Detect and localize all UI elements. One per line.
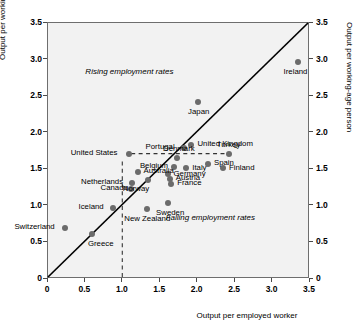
data-point-turkey xyxy=(226,151,232,157)
y-tick-label-left-2: 1.0 xyxy=(14,200,42,210)
y-tick-mark-right-5 xyxy=(309,95,313,96)
data-point-france xyxy=(168,181,174,187)
x-tick-label-2: 1.0 xyxy=(108,284,136,294)
x-tick-label-6: 3.0 xyxy=(258,284,286,294)
y-tick-mark-left-4 xyxy=(43,131,47,132)
point-label-netherlands: Netherlands xyxy=(81,178,123,186)
x-tick-label-1: 0.5 xyxy=(70,284,98,294)
x-axis-title: Output per employed worker xyxy=(0,311,360,320)
data-point-sweden xyxy=(165,200,171,206)
x-tick-mark-3 xyxy=(159,278,160,282)
x-tick-label-0: 0 xyxy=(33,284,61,294)
y-tick-mark-right-2 xyxy=(309,204,313,205)
x-tick-mark-7 xyxy=(309,278,310,282)
x-tick-mark-2 xyxy=(121,278,122,282)
annotation-rising-employment-rates: Rising employment rates xyxy=(85,67,173,76)
x-axis-title-text: Output per employed worker xyxy=(197,311,298,320)
y-tick-label-right-4: 2.0 xyxy=(316,127,344,137)
data-point-united-states xyxy=(126,151,132,157)
y-tick-label-left-6: 3.0 xyxy=(14,54,42,64)
y-tick-mark-right-1 xyxy=(309,241,313,242)
x-tick-mark-6 xyxy=(271,278,272,282)
data-point-greece xyxy=(89,231,95,237)
data-point-switzerland xyxy=(62,225,68,231)
point-label-norway: Norway xyxy=(123,185,149,193)
y-tick-label-right-7: 3.5 xyxy=(316,17,344,27)
point-label-ireland: Ireland xyxy=(284,68,308,76)
x-tick-label-7: 3.5 xyxy=(295,284,323,294)
point-label-united-states: United States xyxy=(71,149,118,157)
y-tick-label-left-1: 0.5 xyxy=(14,236,42,246)
annotation-falling-employment-rates: Falling employment rates xyxy=(166,213,255,222)
x-tick-label-5: 2.5 xyxy=(220,284,248,294)
y-tick-mark-left-1 xyxy=(43,241,47,242)
data-point-new-zealand xyxy=(144,206,150,212)
y-tick-label-right-2: 1.0 xyxy=(316,200,344,210)
x-tick-mark-0 xyxy=(47,278,48,282)
x-tick-mark-4 xyxy=(196,278,197,282)
point-label-finland: Finland xyxy=(229,164,255,172)
point-label-turkey: Turkey xyxy=(217,141,241,149)
y-tick-mark-right-7 xyxy=(309,22,313,23)
y-tick-mark-right-6 xyxy=(309,58,313,59)
x-tick-mark-1 xyxy=(84,278,85,282)
y-tick-label-right-5: 2.5 xyxy=(316,90,344,100)
y-tick-label-left-4: 2.0 xyxy=(14,127,42,137)
point-label-greece: Greece xyxy=(88,240,114,248)
data-point-norway xyxy=(145,177,151,183)
point-label-switzerland: Switzerland xyxy=(14,223,54,231)
y-tick-mark-left-3 xyxy=(43,168,47,169)
x-tick-label-4: 2.0 xyxy=(183,284,211,294)
y-axis-title-right: Output per working-age person xyxy=(345,22,354,172)
data-point-denmark xyxy=(174,155,180,161)
scatter-chart-figure: 000.50.51.01.01.51.52.02.02.52.53.03.03.… xyxy=(0,0,360,328)
point-label-portugal: Portugal xyxy=(146,143,175,151)
y-tick-mark-left-5 xyxy=(43,95,47,96)
x-tick-mark-5 xyxy=(234,278,235,282)
y-tick-mark-right-3 xyxy=(309,168,313,169)
y-tick-label-right-3: 1.5 xyxy=(316,163,344,173)
y-tick-label-right-6: 3.0 xyxy=(316,54,344,64)
x-tick-label-3: 1.5 xyxy=(145,284,173,294)
point-label-iceland: Iceland xyxy=(79,203,104,211)
y-tick-mark-right-4 xyxy=(309,131,313,132)
y-tick-label-left-0: 0 xyxy=(14,273,42,283)
y-axis-title-left: Output per working-age person xyxy=(0,0,7,60)
y-tick-label-right-1: 0.5 xyxy=(316,236,344,246)
y-tick-label-left-7: 3.5 xyxy=(14,17,42,27)
y-tick-mark-right-0 xyxy=(309,278,313,279)
data-point-ireland xyxy=(295,59,301,65)
y-tick-mark-left-7 xyxy=(43,22,47,23)
y-tick-label-left-5: 2.5 xyxy=(14,90,42,100)
point-label-belgium: Belgium xyxy=(140,162,168,170)
y-tick-label-right-0: 0 xyxy=(316,273,344,283)
point-label-japan: Japan xyxy=(188,108,209,116)
point-label-italy: Italy xyxy=(192,164,206,172)
y-tick-mark-left-2 xyxy=(43,204,47,205)
y-tick-label-left-3: 1.5 xyxy=(14,163,42,173)
data-point-japan xyxy=(195,99,201,105)
data-point-iceland xyxy=(110,205,116,211)
y-tick-mark-left-6 xyxy=(43,58,47,59)
